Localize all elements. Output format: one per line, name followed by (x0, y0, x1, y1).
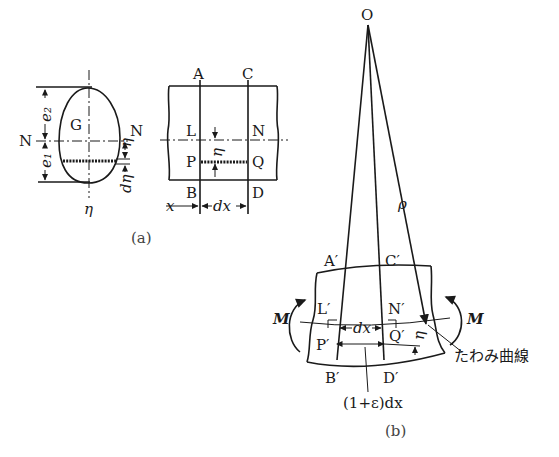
point-B: B (186, 184, 197, 202)
eta-label: η (410, 331, 428, 340)
point-C: C (242, 65, 253, 83)
point-L-prime: L′ (317, 300, 331, 318)
d-eta-label: dη (117, 174, 135, 193)
centroid-label: G (70, 116, 82, 134)
eta-label: η (208, 148, 226, 157)
point-A-prime: A′ (323, 252, 339, 270)
moment-label-right: M (466, 310, 484, 328)
neutral-axis-label-left: N (19, 132, 32, 150)
point-Q: Q (252, 153, 264, 171)
axis-eta-label: η (84, 200, 93, 218)
point-B-prime: B′ (325, 369, 340, 387)
beam-segment: A C L N P Q η B D x dx (160, 65, 288, 215)
deflection-curve-label: たわみ曲線 (454, 347, 529, 365)
point-N-prime: N′ (388, 300, 405, 318)
point-P: P (186, 153, 196, 171)
radial-line-AB (337, 25, 368, 360)
radius-label: ρ (397, 195, 407, 213)
dx-label: dx (213, 197, 232, 215)
eta-label: η (117, 138, 135, 147)
center-O: O (361, 6, 373, 24)
dim-e2: e₂ (37, 107, 55, 122)
moment-arrow-left (289, 300, 305, 352)
cross-section: G N N e₂ e₁ η dη η (19, 70, 143, 218)
point-D-prime: D′ (383, 369, 399, 387)
point-A: A (192, 65, 204, 83)
x-label: x (166, 197, 175, 215)
dim-e1: e₁ (37, 153, 55, 168)
dx-label: dx (353, 319, 372, 337)
moment-label-left: M (272, 310, 290, 328)
beam-bending-diagram: G N N e₂ e₁ η dη η A C L N P Q η B D x d… (0, 0, 559, 457)
point-N: N (252, 122, 265, 140)
point-C-prime: C′ (385, 252, 400, 270)
bent-beam: O ρ A′ C′ L′ N′ P′ Q′ B′ D′ dx η M M (1+… (272, 6, 529, 412)
point-D: D (252, 184, 264, 202)
caption-b: (b) (385, 422, 406, 440)
moment-arrow-right (446, 297, 462, 345)
radial-line-CD (368, 25, 384, 360)
caption-a: (a) (131, 229, 152, 247)
neutral-axis-label-right: N (130, 122, 143, 140)
elongated-length-label: (1+ε)dx (343, 394, 403, 412)
point-L: L (186, 122, 196, 140)
point-Q-prime: Q′ (389, 327, 405, 345)
point-P-prime: P′ (316, 336, 330, 354)
radius-rho (368, 25, 426, 324)
